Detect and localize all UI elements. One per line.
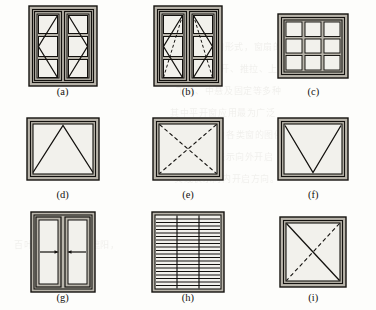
panel-b-caption: (b): [182, 86, 194, 97]
panel-e: (e): [125, 103, 250, 206]
horizontal-sliding-window-icon: [29, 210, 97, 294]
panel-i-drawing: [278, 213, 348, 291]
panel-e-caption: (e): [182, 189, 194, 200]
panel-c-drawing: [276, 7, 350, 85]
awning-window-dashed-cross-icon: [151, 116, 225, 182]
fixed-grid-window-icon: [276, 12, 350, 80]
bottom-hung-hopper-window-icon: [25, 116, 101, 182]
panel-i-caption: (i): [308, 292, 318, 303]
panel-g-caption: (g): [57, 292, 69, 303]
figure-grid: (a) (b): [0, 0, 376, 310]
panel-d-caption: (d): [57, 189, 69, 200]
panel-h-drawing: [150, 213, 226, 291]
panel-c: (c): [251, 0, 376, 103]
louvre-jalousie-window-icon: [150, 210, 226, 294]
panel-i: (i): [251, 207, 376, 310]
double-casement-tilt-and-turn-icon: [152, 4, 224, 88]
panel-f: (f): [251, 103, 376, 206]
top-hung-window-icon: [276, 116, 350, 182]
panel-d: (d): [0, 103, 125, 206]
panel-b: (b): [125, 0, 250, 103]
panel-f-drawing: [276, 110, 350, 188]
panel-c-caption: (c): [308, 86, 320, 97]
panel-d-drawing: [25, 110, 101, 188]
panel-a: (a): [0, 0, 125, 103]
panel-a-caption: (a): [57, 86, 69, 97]
panel-g-drawing: [29, 213, 97, 291]
panel-h-caption: (h): [182, 292, 194, 303]
pivot-window-icon: [278, 215, 348, 289]
panel-g: (g): [0, 207, 125, 310]
panel-h: (h): [125, 207, 250, 310]
double-casement-side-hung-icon: [27, 4, 99, 88]
panel-e-drawing: [151, 110, 225, 188]
panel-f-caption: (f): [308, 189, 319, 200]
panel-b-drawing: [152, 7, 224, 85]
panel-a-drawing: [27, 7, 99, 85]
